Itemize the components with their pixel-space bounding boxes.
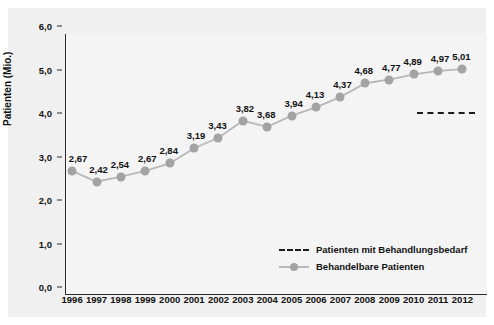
- data-point-label: 4,37: [333, 79, 352, 90]
- y-axis-title: Patienten (Mio.): [2, 52, 13, 126]
- data-point-marker: [238, 116, 247, 125]
- data-point-label: 2,54: [111, 159, 130, 170]
- data-point-label: 2,84: [159, 145, 178, 156]
- x-tick-label: 2001: [184, 294, 205, 305]
- data-point-marker: [68, 166, 77, 175]
- x-tick-label: 1999: [135, 294, 156, 305]
- data-point-marker: [434, 66, 443, 75]
- x-tick-label: 2008: [354, 294, 375, 305]
- data-point-label: 4,77: [382, 62, 401, 73]
- data-point-marker: [458, 65, 467, 74]
- y-tick-mark: [57, 156, 62, 157]
- legend-item-behandelbare-patienten: Behandelbare Patienten: [279, 259, 468, 274]
- y-tick-mark: [57, 243, 62, 244]
- x-tick-label: 2006: [305, 294, 326, 305]
- y-tick-mark: [57, 287, 62, 288]
- y-tick-label: 1,0: [39, 238, 52, 249]
- x-tick-label: 2011: [428, 294, 449, 305]
- x-tick-label: 1998: [110, 294, 131, 305]
- data-point-marker: [214, 133, 223, 142]
- legend-label: Behandelbare Patienten: [316, 261, 424, 272]
- y-tick-label: 6,0: [39, 21, 52, 32]
- y-tick-mark: [57, 26, 62, 27]
- legend-label: Patienten mit Behandlungsbedarf: [316, 244, 468, 255]
- data-point-marker: [190, 144, 199, 153]
- data-point-marker: [287, 111, 296, 120]
- x-tick-label: 2009: [379, 294, 400, 305]
- legend-item-patienten-mit-behandlungsbedarf: Patienten mit Behandlungsbedarf: [279, 242, 468, 257]
- data-point-marker: [263, 122, 272, 131]
- data-point-label: 4,68: [355, 65, 374, 76]
- data-point-label: 2,67: [69, 153, 88, 164]
- data-point-label: 3,19: [187, 130, 206, 141]
- y-tick-label: 4,0: [39, 108, 52, 119]
- x-tick-label: 2003: [232, 294, 253, 305]
- data-point-marker: [165, 159, 174, 168]
- y-tick-label: 3,0: [39, 151, 52, 162]
- dashed-line-icon: [279, 244, 309, 256]
- chart-panel: Patienten (Mio.) 0,01,02,03,04,05,06,0 1…: [8, 8, 486, 317]
- data-point-marker: [92, 177, 101, 186]
- data-point-label: 4,97: [431, 53, 450, 64]
- y-tick-mark: [57, 113, 62, 114]
- x-tick-label: 2000: [159, 294, 180, 305]
- line-marker-icon: [279, 261, 309, 273]
- y-tick-label: 2,0: [39, 195, 52, 206]
- data-point-label: 4,13: [306, 89, 325, 100]
- x-tick-label: 1997: [86, 294, 107, 305]
- x-tick-label: 1996: [62, 294, 83, 305]
- data-point-label: 2,42: [89, 164, 108, 175]
- series-patienten-mit-behandlungsbedarf: [417, 112, 476, 114]
- data-point-marker: [360, 79, 369, 88]
- data-point-label: 3,94: [284, 98, 303, 109]
- chart-legend: Patienten mit Behandlungsbedarf Behandel…: [279, 242, 468, 276]
- data-point-marker: [116, 172, 125, 181]
- data-point-label: 4,89: [403, 56, 422, 67]
- x-tick-label: 2002: [208, 294, 229, 305]
- data-point-label: 3,43: [208, 120, 227, 131]
- data-point-label: 5,01: [452, 51, 471, 62]
- y-tick-mark: [57, 200, 62, 201]
- data-point-label: 3,82: [236, 103, 255, 114]
- y-tick-label: 5,0: [39, 64, 52, 75]
- x-tick-label: 2012: [452, 294, 473, 305]
- x-tick-label: 2007: [330, 294, 351, 305]
- x-tick-label: 2010: [403, 294, 424, 305]
- x-tick-label: 2004: [257, 294, 278, 305]
- data-point-marker: [312, 103, 321, 112]
- y-tick-label: 0,0: [39, 282, 52, 293]
- data-point-label: 2,67: [138, 153, 157, 164]
- x-tick-label: 2005: [281, 294, 302, 305]
- data-point-label: 3,68: [257, 109, 276, 120]
- data-point-marker: [409, 70, 418, 79]
- data-point-marker: [385, 75, 394, 84]
- data-point-marker: [141, 166, 150, 175]
- y-tick-mark: [57, 69, 62, 70]
- data-point-marker: [336, 92, 345, 101]
